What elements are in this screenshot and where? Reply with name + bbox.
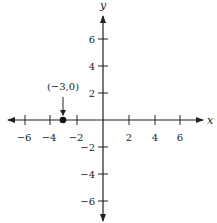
x-tick-label: 2: [126, 132, 132, 143]
x-tick-label: 6: [177, 132, 183, 143]
y-tick-label: 6: [89, 34, 95, 45]
y-tick-label: 2: [89, 88, 95, 99]
x-tick-label: −6: [17, 132, 32, 143]
y-tick-label: 4: [89, 61, 95, 72]
x-axis-label: x: [207, 114, 214, 127]
y-tick-label: −4: [80, 169, 95, 180]
data-point: [60, 117, 67, 124]
x-tick-labels: −6 −4 −2 2 4 6: [17, 132, 184, 143]
y-tick-label: −2: [80, 142, 95, 153]
x-tick-label: 4: [152, 132, 158, 143]
coordinate-plane: x y −6 −4 −2 2 4 6 6 4 2 −2 −4 −6 (−3,0): [0, 0, 217, 223]
x-tick-label: −4: [42, 132, 57, 143]
point-label: (−3,0): [47, 81, 79, 92]
y-axis-label: y: [99, 0, 107, 12]
y-tick-label: −6: [80, 196, 95, 207]
